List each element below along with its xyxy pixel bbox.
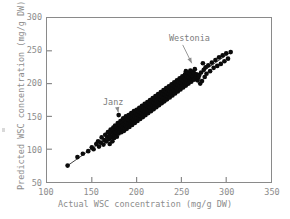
y-tick-label: 300: [19, 12, 42, 22]
annotation-arrows: [47, 18, 271, 182]
plot-area: [47, 18, 271, 182]
x-axis-title: Actual WSC concentration (mg/g DW): [0, 199, 290, 209]
x-tick-label: 100: [38, 187, 53, 197]
scan-artifact: [2, 128, 5, 132]
y-tick-label: 150: [19, 112, 42, 122]
y-tick-label: 250: [19, 45, 42, 55]
plot-frame: [46, 17, 272, 183]
annotation-label-janz: Janz: [103, 97, 123, 107]
x-tick-label: 200: [129, 187, 144, 197]
scatter-plot-figure: Predicted WSC concentration (mg/g DW) Ac…: [0, 0, 290, 219]
y-tick-label: 100: [19, 145, 42, 155]
x-tick-label: 250: [174, 187, 189, 197]
y-tick-label: 50: [19, 178, 42, 188]
x-tick-label: 150: [84, 187, 99, 197]
y-tick-label: 200: [19, 78, 42, 88]
x-tick-label: 350: [264, 187, 279, 197]
annotation-label-westonia: Westonia: [169, 33, 210, 43]
x-tick-label: 300: [219, 187, 234, 197]
